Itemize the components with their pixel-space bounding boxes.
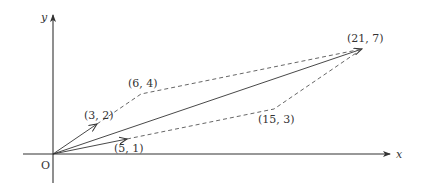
dashed-path-lower <box>127 49 362 139</box>
point-label-6-4: (6, 4) <box>128 77 158 90</box>
point-label-15-3: (15, 3) <box>258 113 295 126</box>
vector-21-7 <box>53 49 362 154</box>
y-axis-label: y <box>40 11 48 24</box>
point-label-3-2: (3, 2) <box>84 109 114 122</box>
point-label-5-1: (5, 1) <box>114 142 144 155</box>
origin-label: O <box>41 159 50 172</box>
vector-diagram: O y x (3, 2) (5, 1) (6, 4) (15, 3) (21, … <box>0 0 422 191</box>
x-axis-label: x <box>396 148 403 161</box>
point-label-21-7: (21, 7) <box>347 32 384 45</box>
